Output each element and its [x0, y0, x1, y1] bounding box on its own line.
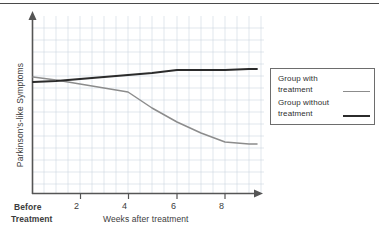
origin-label-treatment: Treatment [11, 214, 53, 224]
legend-swatch-with-treatment [343, 91, 370, 92]
y-axis-title: Parkinson's-like Symptoms [15, 50, 25, 180]
legend-label-with-treatment-line1: Group with [278, 74, 318, 85]
line-chart: Parkinson's-like Symptoms 2 4 6 8 Before… [0, 0, 379, 237]
series-line-group-without-treatment [33, 69, 257, 82]
x-tick-label-6: 6 [171, 201, 176, 211]
x-tick-label-2: 2 [74, 201, 79, 211]
x-axis-title: Weeks after treatment [103, 214, 189, 224]
chart-legend: Group with treatment Group without treat… [270, 68, 375, 125]
origin-label-before: Before [14, 202, 42, 212]
legend-swatch-without-treatment [343, 115, 370, 117]
legend-label-without-treatment-line2: treatment [278, 109, 313, 120]
chart-screenshot: Parkinson's-like Symptoms 2 4 6 8 Before… [0, 0, 379, 237]
series-line-group-with-treatment [33, 77, 257, 144]
legend-label-without-treatment-line1: Group without [278, 98, 329, 109]
x-tick-label-8: 8 [219, 201, 224, 211]
legend-label-with-treatment-line2: treatment [278, 85, 313, 96]
x-tick-label-4: 4 [122, 201, 127, 211]
y-axis [29, 11, 37, 194]
grid-lines [33, 16, 264, 193]
x-axis [32, 190, 263, 198]
